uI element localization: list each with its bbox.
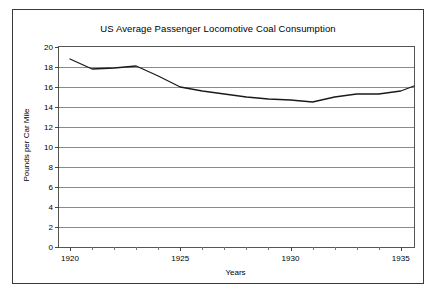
x-axis-tick-minor	[313, 247, 314, 250]
x-axis-tick-minor	[357, 247, 358, 250]
y-axis-label: 10	[44, 143, 53, 152]
x-axis-tick	[180, 247, 181, 251]
x-axis-tick	[70, 247, 71, 251]
plot-area: 02468101214161820 1920192519301935	[58, 46, 415, 248]
x-axis-tick-minor	[335, 247, 336, 250]
x-axis-tick-minor	[246, 247, 247, 250]
x-axis-label: 1920	[61, 254, 79, 263]
x-axis-tick-minor	[158, 247, 159, 250]
y-axis-label: 20	[44, 43, 53, 52]
x-axis-tick-minor	[136, 247, 137, 250]
chart-card: US Average Passenger Locomotive Coal Con…	[12, 9, 424, 284]
x-axis-label: 1935	[392, 254, 410, 263]
series-line-coal-consumption	[59, 47, 414, 247]
y-axis-label: 16	[44, 83, 53, 92]
chart-title: US Average Passenger Locomotive Coal Con…	[13, 23, 423, 34]
x-axis-title: Years	[58, 268, 413, 277]
x-axis-tick-minor	[268, 247, 269, 250]
x-axis-tick-minor	[224, 247, 225, 250]
x-axis-label: 1930	[282, 254, 300, 263]
x-axis-tick-minor	[202, 247, 203, 250]
y-axis-label: 8	[49, 163, 53, 172]
y-axis-label: 2	[49, 223, 53, 232]
y-axis-label: 12	[44, 123, 53, 132]
y-axis-label: 14	[44, 103, 53, 112]
y-axis-label: 0	[49, 243, 53, 252]
x-axis-tick	[401, 247, 402, 251]
y-axis-label: 4	[49, 203, 53, 212]
x-axis-tick-minor	[379, 247, 380, 250]
x-axis-tick	[291, 247, 292, 251]
x-axis-label: 1925	[171, 254, 189, 263]
y-axis-label: 6	[49, 183, 53, 192]
y-axis-tick	[55, 247, 59, 248]
x-axis-tick-minor	[92, 247, 93, 250]
y-axis-label: 18	[44, 63, 53, 72]
y-axis-title: Pounds per Car Mile	[22, 109, 31, 182]
x-axis-tick-minor	[114, 247, 115, 250]
